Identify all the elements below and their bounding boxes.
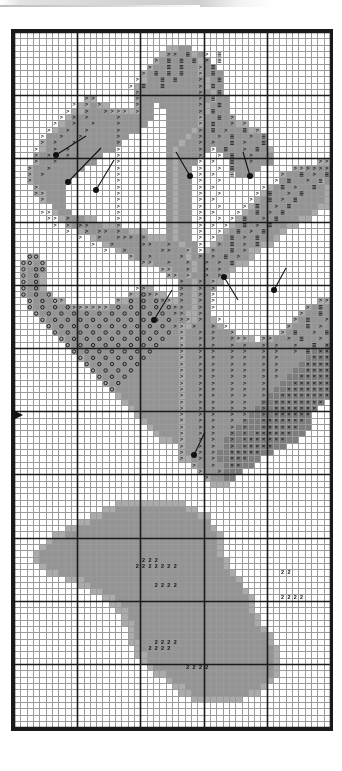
stitch-grid-canvas[interactable] xyxy=(14,32,330,728)
pattern-chart xyxy=(11,29,333,731)
chart-grid xyxy=(14,32,330,728)
center-arrow-marker xyxy=(11,408,25,422)
scan-edge-artifact xyxy=(0,0,342,7)
